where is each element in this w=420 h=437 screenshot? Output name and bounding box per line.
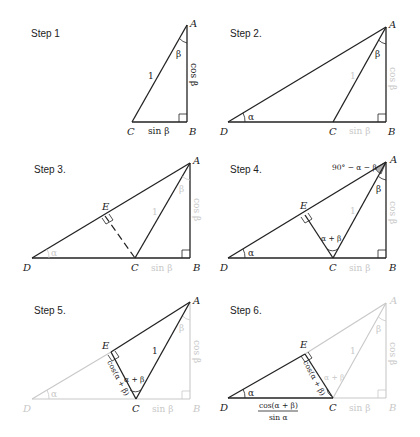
angle-arc-D-icon (47, 390, 49, 399)
side-CA (136, 302, 190, 399)
point-B: B (192, 262, 200, 273)
angle-arc-A-icon (183, 177, 191, 181)
cos-beta-label: cos β (192, 340, 202, 363)
hypotenuse-label: 1 (152, 346, 158, 356)
angle-arc-A-icon (379, 317, 387, 321)
step-1-panel: Step 1 A B C β 1 cos β sin β (31, 18, 199, 137)
side-CA (132, 25, 187, 122)
point-A: A (192, 295, 200, 306)
right-angle-B-icon (182, 391, 190, 399)
side-CA (333, 162, 386, 258)
angle-beta-label: β (375, 49, 380, 59)
step-2-panel: Step 2. A B C D β α 1 cos β sin β (219, 19, 398, 137)
angle-arc-D-icon (243, 389, 245, 398)
point-B: B (192, 403, 200, 414)
right-angle-B-icon (179, 114, 187, 122)
point-E: E (299, 339, 308, 350)
step-4-label: Step 4. (230, 164, 262, 175)
right-angle-B-icon (182, 250, 190, 258)
point-B: B (388, 402, 396, 413)
diagram-canvas: Step 1 A B C β 1 cos β sin β Step 2. A B… (0, 0, 420, 437)
side-CA-faded (333, 303, 386, 398)
point-D: D (22, 403, 31, 414)
point-E: E (299, 200, 308, 211)
point-B: B (387, 126, 395, 137)
point-C: C (132, 403, 140, 414)
fraction-denominator: sin α (269, 413, 288, 422)
angle-arc-D-icon (243, 249, 245, 258)
step-3-panel: Step 3. A B C D E β α 1 cos β sin β (22, 155, 202, 273)
point-C: C (329, 262, 337, 273)
step-6-panel: Step 6. A B C D E β α α + β 1 cos(α + β)… (219, 295, 398, 422)
step-4-panel: Step 4. A B C D E 90° − α − β β α α + β … (219, 154, 398, 273)
point-D: D (219, 126, 228, 137)
point-D: D (22, 262, 31, 273)
sin-beta-label: sin β (151, 263, 172, 273)
right-angle-B-icon (378, 250, 386, 258)
hypotenuse-label: 1 (350, 71, 356, 81)
cos-beta-label: cos β (388, 201, 398, 224)
angle-alpha-label: α (248, 248, 254, 258)
point-A: A (189, 18, 197, 29)
angle-beta-label: β (176, 49, 181, 59)
right-angle-B-icon (378, 390, 386, 398)
side-DA (228, 27, 386, 122)
sin-beta-label: sin β (349, 403, 370, 413)
side-DE (228, 354, 305, 398)
point-C: C (329, 126, 337, 137)
side-DA (32, 163, 190, 258)
fraction-numerator: cos(α + β) (259, 401, 298, 410)
angle-alpha-label: α (51, 389, 57, 399)
sin-beta-label: sin β (152, 404, 173, 414)
angle-beta-label: β (179, 184, 184, 194)
cos-beta-label: cos β (388, 342, 398, 365)
angle-arc-D-icon (47, 249, 49, 258)
side-CA (333, 27, 386, 122)
cos-beta-label: cos β (189, 63, 199, 86)
angle-beta-label: β (179, 323, 184, 333)
point-A: A (389, 154, 397, 165)
angle-arc-D-icon (243, 113, 245, 122)
angle-arc-A-icon (183, 316, 191, 320)
cos-beta-label: cos β (192, 198, 202, 221)
hypotenuse-label: 1 (350, 206, 356, 216)
angle-alpha-plus-beta-label: α + β (324, 373, 344, 382)
hypotenuse-label: 1 (350, 346, 356, 356)
angle-arc-A-icon (379, 177, 387, 181)
angle-alpha-plus-beta-label: α + β (321, 234, 341, 243)
step-5-label: Step 5. (34, 305, 66, 316)
sin-beta-label: sin β (148, 126, 169, 136)
step-5-panel: Step 5. A B C D E β α α + β 1 cos(α + β)… (22, 295, 202, 414)
angle-arc-A-icon (180, 39, 188, 44)
hypotenuse-label: 1 (148, 71, 154, 81)
point-A: A (389, 295, 397, 306)
point-B: B (188, 126, 196, 137)
side-DE-faded (32, 352, 111, 399)
step-2-label: Step 2. (230, 28, 262, 39)
side-CA (135, 163, 190, 258)
angle-alpha-label: α (51, 248, 57, 258)
step-3-label: Step 3. (34, 164, 66, 175)
point-C: C (127, 126, 135, 137)
sin-beta-label: sin β (349, 263, 370, 273)
angle-alpha-label: α (248, 388, 254, 398)
angle-EAC-label: 90° − α − β (332, 163, 377, 172)
point-E: E (101, 201, 110, 212)
angle-arc-A-icon (379, 40, 387, 44)
right-angle-B-icon (378, 114, 386, 122)
angle-alpha-plus-beta-label: α + β (124, 375, 144, 384)
angle-beta-label: β (376, 184, 381, 194)
point-D: D (219, 402, 228, 413)
point-A: A (192, 155, 200, 166)
point-B: B (388, 262, 396, 273)
step-6-label: Step 6. (230, 305, 262, 316)
point-D: D (219, 262, 228, 273)
point-E: E (101, 340, 110, 351)
sin-beta-label: sin β (349, 126, 370, 136)
hypotenuse-label: 1 (152, 207, 158, 217)
point-C: C (329, 402, 337, 413)
cos-beta-label: cos β (388, 67, 398, 90)
side-EA-faded (305, 303, 386, 354)
point-C: C (131, 262, 139, 273)
point-A: A (388, 19, 396, 30)
